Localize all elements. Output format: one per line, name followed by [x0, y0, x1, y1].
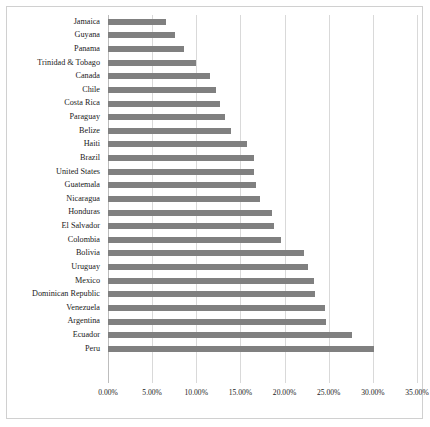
bar	[108, 141, 247, 147]
bar	[108, 60, 196, 66]
bar	[108, 32, 175, 38]
y-axis-label: Ecuador	[73, 331, 100, 339]
x-axis-tick-label: 10.00%	[185, 389, 208, 397]
y-axis-label: Brazil	[80, 154, 100, 162]
bar	[108, 114, 225, 120]
y-axis-label: Venezuela	[66, 304, 100, 312]
x-axis-tick-label: 30.00%	[361, 389, 384, 397]
bar-row	[108, 15, 417, 29]
bar-row	[108, 83, 417, 97]
y-axis-label: Uruguay	[71, 263, 100, 271]
bar-row	[108, 165, 417, 179]
y-axis-category-labels: JamaicaGuyanaPanamaTrinidad & TobagoCana…	[7, 15, 104, 383]
y-axis-label: Peru	[85, 345, 100, 353]
bar	[108, 196, 260, 202]
bar	[108, 155, 254, 161]
y-axis-label-row: Costa Rica	[7, 97, 104, 111]
bar-row	[108, 206, 417, 220]
y-axis-label: Paraguay	[70, 113, 100, 121]
bar	[108, 87, 216, 93]
bar	[108, 128, 231, 134]
bar-row	[108, 328, 417, 342]
bar-row	[108, 260, 417, 274]
y-axis-label-row: Honduras	[7, 206, 104, 220]
y-axis-label-row: Ecuador	[7, 328, 104, 342]
bar-row	[108, 124, 417, 138]
y-axis-label: Mexico	[75, 277, 100, 285]
bar-row	[108, 179, 417, 193]
bar-row	[108, 342, 417, 356]
y-axis-label-row: Guyana	[7, 29, 104, 43]
x-axis-tick-label: 15.00%	[229, 389, 252, 397]
y-axis-label: Honduras	[68, 208, 100, 216]
y-axis-label-row: Panama	[7, 42, 104, 56]
bar	[108, 19, 166, 25]
y-axis-label: Canada	[75, 72, 100, 80]
y-axis-label: El Salvador	[62, 222, 100, 230]
bar-row	[108, 138, 417, 152]
y-axis-label-row: Chile	[7, 83, 104, 97]
bar	[108, 332, 352, 338]
y-axis-label-row: Paraguay	[7, 110, 104, 124]
bar-row	[108, 315, 417, 329]
bar-row	[108, 219, 417, 233]
bar	[108, 346, 374, 352]
y-axis-label: Dominican Republic	[32, 290, 100, 298]
gridline-3500	[417, 15, 418, 383]
y-axis-label-row: Mexico	[7, 274, 104, 288]
y-axis-label-row: Haiti	[7, 138, 104, 152]
bar-row	[108, 288, 417, 302]
y-axis-label-row: Colombia	[7, 233, 104, 247]
y-axis-label: Nicaragua	[66, 195, 100, 203]
y-axis-label-row: Argentina	[7, 315, 104, 329]
bar-row	[108, 42, 417, 56]
bar-row	[108, 301, 417, 315]
y-axis-label: Colombia	[68, 236, 100, 244]
y-axis-label-row: Jamaica	[7, 15, 104, 29]
y-axis-label-row: Peru	[7, 342, 104, 356]
y-axis-label: Guyana	[75, 31, 100, 39]
y-axis-label: Trinidad & Tobago	[37, 59, 100, 67]
bar	[108, 305, 325, 311]
bar	[108, 278, 314, 284]
bar	[108, 73, 210, 79]
chart-frame: JamaicaGuyanaPanamaTrinidad & TobagoCana…	[6, 6, 423, 419]
bar	[108, 250, 304, 256]
y-axis-label-row: El Salvador	[7, 219, 104, 233]
bar-row	[108, 151, 417, 165]
y-axis-label-row: Dominican Republic	[7, 288, 104, 302]
bar	[108, 223, 274, 229]
bar	[108, 169, 254, 175]
y-axis-label-row: United States	[7, 165, 104, 179]
x-axis-tick-label: 20.00%	[273, 389, 296, 397]
y-axis-label: Costa Rica	[64, 99, 100, 107]
y-axis-label-row: Nicaragua	[7, 192, 104, 206]
y-axis-label-row: Canada	[7, 70, 104, 84]
x-axis-tick-label: 5.00%	[142, 389, 162, 397]
y-axis-label: Argentina	[67, 317, 100, 325]
x-axis-tick-label: 35.00%	[405, 389, 428, 397]
y-axis-label: Panama	[74, 45, 100, 53]
y-axis-label-row: Guatemala	[7, 179, 104, 193]
x-axis-tick-labels: 0.00%5.00%10.00%15.00%20.00%25.00%30.00%…	[108, 389, 417, 405]
bar	[108, 237, 281, 243]
y-axis-label-row: Brazil	[7, 151, 104, 165]
y-axis-label: Haiti	[84, 140, 100, 148]
bar	[108, 101, 220, 107]
bar-row	[108, 29, 417, 43]
plot-area	[108, 15, 417, 383]
x-axis-tick-label: 0.00%	[98, 389, 118, 397]
y-axis-label: Guatemala	[65, 181, 100, 189]
bar-row	[108, 274, 417, 288]
bar-row	[108, 97, 417, 111]
bar-series	[108, 15, 417, 383]
bar	[108, 182, 256, 188]
y-axis-label: Chile	[82, 86, 100, 94]
y-axis-label-row: Venezuela	[7, 301, 104, 315]
y-axis-label: Jamaica	[74, 18, 100, 26]
x-axis-tick-label: 25.00%	[317, 389, 340, 397]
bar	[108, 291, 315, 297]
y-axis-label-row: Bolivia	[7, 247, 104, 261]
bar	[108, 264, 308, 270]
bar-row	[108, 70, 417, 84]
